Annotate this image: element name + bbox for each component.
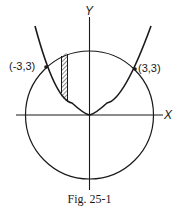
figure-diagram [0,0,179,211]
x-axis-label: X [164,108,172,122]
y-axis-label: Y [85,4,93,18]
point-3-3 [133,67,137,71]
point-neg3-3 [44,65,48,69]
parabola-curve [35,26,151,115]
point-label-3-3: (3,3) [138,62,161,74]
point-label-neg3-3: (-3,3) [9,60,35,72]
figure-caption: Fig. 25-1 [0,192,179,207]
